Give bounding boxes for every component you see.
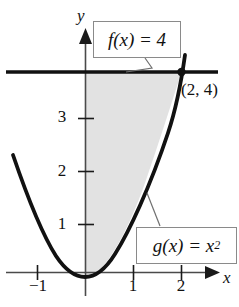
label-fx-text: f(x) = 4 xyxy=(108,29,166,51)
y-axis-arrowhead xyxy=(79,28,92,44)
label-gx-exponent: 2 xyxy=(214,238,220,253)
label-gx-text: g(x) = x xyxy=(153,235,214,257)
intersection-point-marker xyxy=(177,68,185,76)
x-axis-arrowhead xyxy=(205,266,220,279)
label-box-fx: f(x) = 4 xyxy=(93,21,181,58)
y-tick-label-1: 1 xyxy=(54,214,70,234)
x-tick-label-1: 1 xyxy=(120,276,146,296)
x-tick-label-neg1: −1 xyxy=(25,276,51,296)
y-axis-label: y xyxy=(77,6,85,26)
x-tick-label-2: 2 xyxy=(168,276,194,296)
leader-line-fx xyxy=(126,58,152,72)
intersection-point-label: (2, 4) xyxy=(181,80,218,100)
function-graph-figure: f(x) = 4 g(x) = x2 (2, 4) x y −1 1 2 1 2… xyxy=(0,0,239,307)
y-tick-label-2: 2 xyxy=(54,161,70,181)
label-box-gx: g(x) = x2 xyxy=(136,227,237,264)
leader-line-gx xyxy=(147,193,160,226)
y-tick-label-3: 3 xyxy=(54,107,70,127)
x-axis-label: x xyxy=(223,268,231,288)
